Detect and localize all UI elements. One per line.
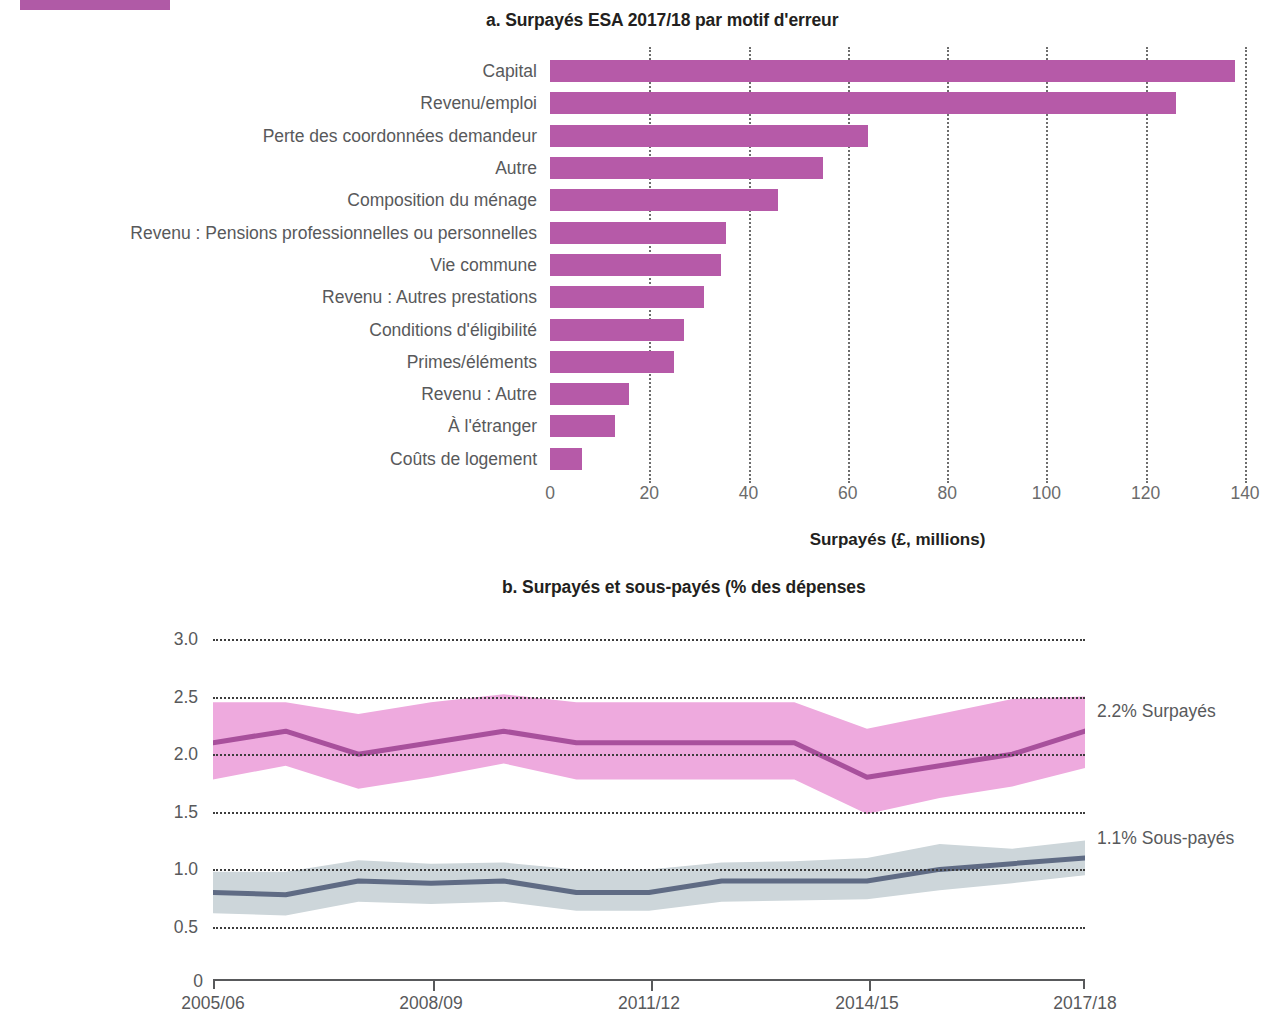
chart-a-bar xyxy=(550,448,582,470)
chart-a-x-tick-label: 80 xyxy=(937,483,956,504)
chart-a-x-tick-label: 120 xyxy=(1131,483,1160,504)
chart-b-series-svg xyxy=(213,639,1085,927)
chart-b-x-tick-label: 2005/06 xyxy=(181,993,244,1014)
chart-a-category-label: Revenu : Pensions professionnelles ou pe… xyxy=(130,222,550,244)
chart-b-y-tick-label: 2.0 xyxy=(138,744,198,765)
chart-b-series-end-label: 2.2% Surpayés xyxy=(1097,701,1216,722)
chart-a-bar xyxy=(550,415,615,437)
chart-a-bar xyxy=(550,157,823,179)
chart-a-x-tick-label: 140 xyxy=(1230,483,1259,504)
chart-a-category-label: Coûts de logement xyxy=(390,448,550,470)
chart-a-bar xyxy=(550,60,1235,82)
chart-a-category-label: Perte des coordonnées demandeur xyxy=(263,125,550,147)
chart-a-x-axis-title: Surpayés (£, millions) xyxy=(550,530,1245,550)
chart-a-bar xyxy=(550,383,629,405)
chart-a-bar-row: Coûts de logement xyxy=(550,443,1245,475)
chart-b-x-tick-label: 2014/15 xyxy=(835,993,898,1014)
chart-b-gridline xyxy=(213,754,1085,756)
chart-b-gridline xyxy=(213,812,1085,814)
chart-b-y-tick-label: 1.5 xyxy=(138,801,198,822)
chart-b-title: b. Surpayés et sous-payés (% des dépense… xyxy=(502,577,866,598)
chart-a-x-tick-label: 60 xyxy=(838,483,857,504)
chart-a-category-label: Conditions d'éligibilité xyxy=(369,319,550,341)
chart-a-bar xyxy=(550,254,721,276)
chart-a-x-tick-label: 0 xyxy=(545,483,555,504)
chart-b-y-tick-label: 2.5 xyxy=(138,686,198,707)
chart-a-category-label: Vie commune xyxy=(430,254,550,276)
chart-a-bar-row: Primes/éléments xyxy=(550,346,1245,378)
chart-a-bar xyxy=(550,319,684,341)
chart-b-gridline xyxy=(213,639,1085,641)
chart-a-bar-row: Revenu : Autre xyxy=(550,378,1245,410)
chart-a-bar xyxy=(550,286,704,308)
chart-b-y-tick-zero: 0 xyxy=(153,971,203,992)
chart-a-bar xyxy=(550,92,1176,114)
chart-a-category-label: Revenu : Autres prestations xyxy=(322,286,550,308)
chart-b-confidence-band xyxy=(213,841,1085,916)
chart-a-x-tick-label: 100 xyxy=(1032,483,1061,504)
chart-a-bar-row: Revenu/emploi xyxy=(550,87,1245,119)
chart-a-category-label: Composition du ménage xyxy=(347,189,550,211)
chart-b-over-and-underpayments: b. Surpayés et sous-payés (% des dépense… xyxy=(0,565,1262,1024)
chart-a-bar xyxy=(550,222,726,244)
chart-a-overpayments-by-error-reason: a. Surpayés ESA 2017/18 par motif d'erre… xyxy=(0,0,1262,565)
chart-a-category-label: Capital xyxy=(483,60,550,82)
chart-a-bar-row: Composition du ménage xyxy=(550,184,1245,216)
chart-a-bar-row: Revenu : Pensions professionnelles ou pe… xyxy=(550,217,1245,249)
chart-a-bar-row: Autre xyxy=(550,152,1245,184)
chart-b-x-tick-label: 2008/09 xyxy=(399,993,462,1014)
chart-a-category-label: Revenu : Autre xyxy=(421,383,550,405)
chart-a-bar-row: Revenu : Autres prestations xyxy=(550,281,1245,313)
chart-a-bar-row: À l'étranger xyxy=(550,410,1245,442)
chart-a-category-label: À l'étranger xyxy=(448,415,550,437)
chart-a-plot-area: CapitalRevenu/emploiPerte des coordonnée… xyxy=(550,55,1245,475)
chart-a-bar xyxy=(550,189,778,211)
chart-a-bar-row: Vie commune xyxy=(550,249,1245,281)
chart-b-x-tick-mark xyxy=(651,981,653,991)
chart-b-y-tick-label: 3.0 xyxy=(138,629,198,650)
chart-a-bar xyxy=(550,125,868,147)
chart-a-bar-row: Perte des coordonnées demandeur xyxy=(550,120,1245,152)
chart-a-bar-row: Capital xyxy=(550,55,1245,87)
chart-b-x-axis-line xyxy=(213,979,1085,989)
chart-a-gridline xyxy=(1245,47,1247,483)
chart-a-x-tick-label: 40 xyxy=(739,483,758,504)
chart-b-y-tick-label: 0.5 xyxy=(138,917,198,938)
chart-b-y-tick-label: 1.0 xyxy=(138,859,198,880)
chart-b-gridline xyxy=(213,927,1085,929)
chart-b-x-tick-label: 2011/12 xyxy=(618,993,680,1014)
chart-a-bar xyxy=(550,351,674,373)
chart-b-x-tick-mark xyxy=(869,981,871,991)
chart-a-category-label: Autre xyxy=(495,157,550,179)
chart-b-gridline xyxy=(213,697,1085,699)
chart-b-x-tick-mark xyxy=(433,981,435,991)
chart-a-category-label: Primes/éléments xyxy=(407,351,550,373)
chart-a-bar-row: Conditions d'éligibilité xyxy=(550,313,1245,345)
chart-a-x-tick-label: 20 xyxy=(640,483,659,504)
chart-a-title: a. Surpayés ESA 2017/18 par motif d'erre… xyxy=(486,10,838,31)
chart-b-gridline xyxy=(213,869,1085,871)
chart-b-series-end-label: 1.1% Sous-payés xyxy=(1097,828,1234,849)
chart-a-category-label: Revenu/emploi xyxy=(420,92,550,114)
chart-b-x-tick-label: 2017/18 xyxy=(1053,993,1116,1014)
chart-b-plot-area: 3.02.52.01.51.00.52.2% Surpayés1.1% Sous… xyxy=(213,639,1085,927)
